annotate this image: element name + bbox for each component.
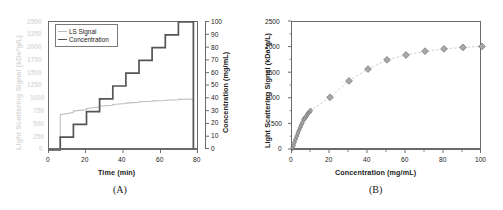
panel-b-xtick-20: 20: [325, 156, 332, 163]
panel-a-lefttick-1500: 1500: [27, 69, 42, 76]
panel-b-xtick-60: 60: [401, 156, 408, 163]
panel-a-lefttick-2500: 2500: [27, 18, 42, 25]
panel-a-righttick-10: 10: [211, 132, 218, 139]
panel-b-xtick-100: 100: [475, 156, 486, 163]
panel-a-lefttick-2000: 2000: [27, 43, 42, 50]
panel-a-righttick-40: 40: [211, 94, 218, 101]
figure-container: Light Scattering Signal (kDa*g/L) Concen…: [0, 0, 503, 210]
panel-b-ytick-0: 0: [278, 145, 282, 152]
panel-b-scatter: [292, 22, 482, 150]
panel-a-xtick-80: 80: [193, 156, 200, 163]
panel-a-righttick-60: 60: [211, 69, 218, 76]
panel-b-ytick-500: 500: [271, 120, 282, 127]
panel-a-lefttick-750: 750: [33, 107, 44, 114]
panel-b-xtick-0: 0: [289, 156, 293, 163]
legend-swatch-ls-signal: [58, 31, 67, 32]
panel-a-righttick-50: 50: [211, 81, 218, 88]
panel-b-xtick-80: 80: [439, 156, 446, 163]
panel-a-xtick-40: 40: [118, 156, 125, 163]
panel-a-right-axis-title: Concentration (mg/mL): [221, 52, 230, 133]
panel-b: Light Scattering Signal (kDa*g/L): [251, 0, 503, 210]
panel-a-lefttick-1750: 1750: [27, 56, 42, 63]
panel-b-ytick-1000: 1000: [265, 94, 280, 101]
panel-a-label: (A): [113, 184, 127, 195]
panel-a-righttick-0: 0: [211, 145, 215, 152]
panel-a-xtick-60: 60: [156, 156, 163, 163]
panel-b-label: (B): [369, 184, 382, 195]
panel-a-righttick-100: 100: [211, 18, 222, 25]
panel-b-y-axis: [286, 21, 292, 150]
panel-b-y-axis-title: Light Scattering Signal (kDa*g/L): [263, 33, 272, 148]
legend-item-ls-signal: LS Signal: [58, 27, 114, 35]
panel-a-righttick-30: 30: [211, 107, 218, 114]
panel-a-righttick-90: 90: [211, 31, 218, 38]
panel-a-lefttick-1000: 1000: [30, 94, 45, 101]
panel-a-x-axis: [48, 149, 200, 155]
panel-a-left-axis-title: Light Scattering Signal (kDa*g/L): [14, 35, 23, 150]
panel-b-ytick-2500: 2500: [265, 18, 280, 25]
panel-b-ytick-2000: 2000: [265, 43, 280, 50]
panel-a-x-axis-title: Time (min): [98, 168, 135, 177]
panel-a-lefttick-0: 0: [39, 145, 43, 152]
series-ls-signal: [49, 99, 193, 150]
panel-a-legend: LS Signal Concentration: [55, 24, 118, 47]
panel-a-xtick-0: 0: [46, 156, 50, 163]
panel-a-xtick-20: 20: [81, 156, 88, 163]
panel-b-x-axis: [291, 149, 483, 155]
panel-a-righttick-80: 80: [211, 44, 218, 51]
panel-b-plot-area: [291, 21, 481, 149]
panel-a-righttick-70: 70: [211, 56, 218, 63]
panel-a-righttick-20: 20: [211, 119, 218, 126]
panel-a-lefttick-500: 500: [33, 120, 44, 127]
legend-label-ls-signal: LS Signal: [69, 28, 96, 35]
panel-b-ytick-1500: 1500: [265, 69, 280, 76]
panel-a: Light Scattering Signal (kDa*g/L) Concen…: [0, 0, 251, 210]
legend-item-concentration: Concentration: [58, 35, 114, 43]
panel-a-lefttick-2250: 2250: [27, 30, 42, 37]
panel-a-lefttick-1250: 1250: [27, 81, 42, 88]
legend-swatch-concentration: [58, 39, 67, 40]
panel-a-lefttick-250: 250: [33, 133, 44, 140]
panel-b-xtick-40: 40: [363, 156, 370, 163]
legend-label-concentration: Concentration: [69, 36, 109, 43]
panel-b-x-axis-title: Concentration (mg/mL): [335, 168, 416, 177]
panel-b-data-points: [291, 43, 486, 151]
